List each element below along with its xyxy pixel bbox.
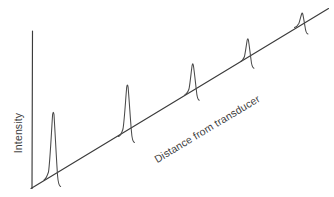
vertical-axis-line	[32, 31, 33, 189]
pulse-trace-4	[241, 39, 254, 69]
attenuation-diagram: Intensity Distance from transducer	[0, 0, 334, 197]
y-axis-label: Intensity	[12, 112, 24, 153]
diagonal-axis-line	[31, 9, 329, 189]
pulse-trace-3	[185, 64, 199, 100]
pulse-trace-5	[295, 13, 308, 34]
diagonal-axis-label: Distance from transducer	[152, 92, 262, 165]
diagram-canvas: Intensity Distance from transducer	[0, 0, 334, 197]
pulse-trace-2	[119, 85, 135, 143]
